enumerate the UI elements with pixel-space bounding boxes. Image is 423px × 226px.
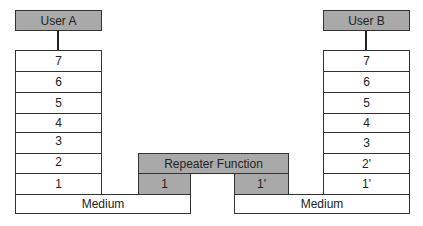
- repeater-label: Repeater Function: [164, 157, 263, 171]
- user-a-layer-6: 6: [15, 71, 102, 93]
- repeater-right-layer: 1': [234, 173, 289, 195]
- user-a-box: User A: [15, 10, 102, 31]
- layer-label: 3: [55, 134, 62, 148]
- user-b-layer-1: 1': [323, 173, 410, 195]
- user-a-layer-2: 2: [15, 153, 102, 174]
- user-a-layer-1: 1: [15, 173, 102, 195]
- layer-label: 1': [257, 177, 266, 191]
- user-b-layer-6: 6: [323, 71, 410, 93]
- layer-label: 1: [161, 177, 168, 191]
- user-b-layer-3: 3: [323, 132, 410, 154]
- user-b-box: User B: [323, 10, 410, 31]
- layer-label: 4: [363, 116, 370, 130]
- user-a-layer-5: 5: [15, 92, 102, 114]
- layer-label: 5: [55, 96, 62, 110]
- layer-label: 2': [362, 157, 371, 171]
- layer-label: 7: [55, 54, 62, 68]
- layer-label: 6: [363, 75, 370, 89]
- user-b-layer-7: 7: [323, 50, 410, 72]
- medium-label: Medium: [82, 197, 125, 211]
- repeater-function-box: Repeater Function: [138, 153, 289, 174]
- layer-label: 7: [363, 54, 370, 68]
- user-a-layer-7: 7: [15, 50, 102, 72]
- medium-left: Medium: [15, 194, 191, 214]
- user-b-layer-4: 4: [323, 113, 410, 133]
- user-b-connector: [365, 31, 367, 51]
- layer-label: 4: [55, 116, 62, 130]
- user-a-layer-4: 4: [15, 113, 102, 133]
- user-b-label: User B: [348, 14, 385, 28]
- medium-right: Medium: [234, 194, 410, 214]
- user-b-layer-5: 5: [323, 92, 410, 114]
- layer-label: 2: [55, 155, 62, 169]
- user-a-connector: [57, 31, 59, 51]
- layer-label: 1': [362, 177, 371, 191]
- user-a-layer-3: 3: [15, 132, 102, 154]
- layer-label: 6: [55, 75, 62, 89]
- user-a-label: User A: [40, 14, 76, 28]
- layer-label: 5: [363, 96, 370, 110]
- user-b-layer-2: 2': [323, 153, 410, 174]
- medium-label: Medium: [301, 197, 344, 211]
- layer-label: 3: [363, 136, 370, 150]
- layer-label: 1: [55, 177, 62, 191]
- repeater-left-layer: 1: [138, 173, 191, 195]
